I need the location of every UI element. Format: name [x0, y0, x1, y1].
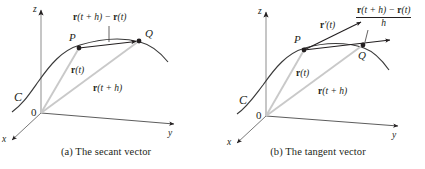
r-t-plus-h-argument: (t + h) [322, 86, 347, 96]
numerator-middle-text: (t + h) − [361, 5, 397, 15]
tangent-prime-argument: ′(t) [324, 20, 335, 30]
z-axis-label: z [258, 7, 262, 17]
r-t-argument: (t) [75, 65, 84, 75]
secant-tail-text: (t) [117, 12, 126, 22]
y-axis-line [266, 116, 398, 126]
y-axis-label: y [392, 131, 396, 141]
position-vector-r-t-label: r(t) [296, 69, 309, 79]
position-vector-r-t-plus-h [41, 41, 139, 113]
r-t-plus-h-argument: (t + h) [97, 83, 122, 93]
h-label-leader [365, 30, 368, 42]
secant-middle-text: (t + h) − [77, 12, 113, 22]
origin-label: 0 [31, 107, 37, 118]
space-curve [12, 39, 168, 112]
space-curve [237, 44, 389, 115]
point-p-dot [77, 46, 82, 51]
curve-label-c: C [14, 91, 22, 103]
caption-panel-b: (b) The tangent vector [212, 146, 424, 157]
position-vector-r-t-label: r(t) [71, 66, 84, 76]
position-vector-r-t-plus-h-label: r(t + h) [93, 84, 122, 94]
z-axis-label: z [33, 5, 37, 15]
secant-vector-label: r(t + h) − r(t) [73, 13, 126, 23]
caption-panel-a: (a) The secant vector [0, 146, 212, 157]
curve-label-c: C [239, 94, 247, 106]
difference-quotient-numerator: r(t + h) − r(t) [356, 6, 411, 18]
numerator-tail-text: (t) [401, 5, 410, 15]
figure-container: z y x 0 C P Q r(t) r(t + h) r(t + h) − r… [0, 0, 425, 169]
position-vector-r-t-plus-h [266, 45, 363, 116]
difference-quotient-label: r(t + h) − r(t) h [356, 6, 411, 28]
position-vector-r-t-plus-h-label: r(t + h) [318, 87, 347, 97]
panel-tangent-vector: z y x 0 C P Q r(t) r(t + h) r′(t) r(t + … [212, 0, 424, 169]
point-q-label: Q [145, 28, 153, 39]
origin-label: 0 [256, 110, 262, 121]
y-axis-line [41, 113, 174, 124]
point-q-label: Q [358, 50, 366, 61]
point-p-label: P [69, 32, 76, 43]
r-t-argument: (t) [300, 68, 309, 78]
point-p-dot [302, 48, 307, 53]
position-vector-r-t [41, 48, 79, 113]
y-axis-label: y [168, 129, 172, 139]
position-vector-r-t [266, 50, 304, 116]
x-axis-label: x [2, 135, 6, 145]
point-q-dot [361, 43, 366, 48]
tangent-vector-label: r′(t) [320, 21, 335, 31]
panel-secant-vector: z y x 0 C P Q r(t) r(t + h) r(t + h) − r… [0, 0, 212, 169]
difference-quotient-denominator: h [356, 18, 411, 29]
point-p-label: P [294, 34, 301, 45]
point-q-dot [137, 39, 142, 44]
